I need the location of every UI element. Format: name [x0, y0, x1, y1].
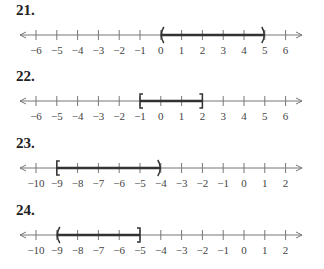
tick-label: −5	[51, 110, 63, 122]
tick-label: −1	[134, 44, 146, 56]
number-line: −10−9−8−7−6−5−4−3−2−1012	[0, 133, 324, 199]
tick-label: −7	[93, 177, 105, 189]
problem-24: 24. −10−9−8−7−6−5−4−3−2−1012	[0, 200, 324, 266]
tick-label: 1	[179, 110, 185, 122]
tick-label: −2	[197, 177, 209, 189]
tick-label: −1	[217, 244, 229, 256]
tick-label: 2	[283, 177, 289, 189]
tick-label: −10	[27, 177, 45, 189]
tick-label: 3	[220, 44, 226, 56]
tick-label: −4	[72, 110, 84, 122]
tick-label: −6	[30, 110, 42, 122]
tick-label: −8	[72, 177, 84, 189]
tick-label: 2	[200, 44, 206, 56]
tick-label: 0	[158, 110, 164, 122]
number-line: −6−5−4−3−2−10123456	[0, 66, 324, 132]
tick-label: 0	[241, 244, 247, 256]
tick-label: −5	[134, 244, 146, 256]
number-line: −10−9−8−7−6−5−4−3−2−1012	[0, 200, 324, 266]
tick-label: 0	[158, 44, 164, 56]
problem-23: 23. −10−9−8−7−6−5−4−3−2−1012	[0, 133, 324, 199]
tick-label: −2	[113, 110, 125, 122]
tick-label: 5	[262, 110, 268, 122]
tick-label: −5	[134, 177, 146, 189]
tick-label: −5	[51, 44, 63, 56]
tick-label: −3	[176, 244, 188, 256]
tick-label: 6	[283, 110, 289, 122]
tick-label: −2	[197, 244, 209, 256]
tick-label: 0	[241, 177, 247, 189]
tick-label: 4	[241, 110, 247, 122]
tick-label: 2	[283, 244, 289, 256]
tick-label: 1	[262, 244, 268, 256]
problem-22: 22. −6−5−4−3−2−10123456	[0, 66, 324, 132]
tick-label: 6	[283, 44, 289, 56]
tick-label: −3	[93, 110, 105, 122]
tick-label: −4	[155, 177, 167, 189]
tick-label: −1	[134, 110, 146, 122]
tick-label: −8	[72, 244, 84, 256]
tick-label: −3	[176, 177, 188, 189]
number-line: −6−5−4−3−2−10123456	[0, 0, 324, 66]
tick-label: −4	[72, 44, 84, 56]
tick-label: −9	[51, 177, 63, 189]
tick-label: −7	[93, 244, 105, 256]
tick-label: −6	[113, 177, 125, 189]
tick-label: −6	[30, 44, 42, 56]
tick-label: 1	[262, 177, 268, 189]
tick-label: −9	[51, 244, 63, 256]
tick-label: −10	[27, 244, 45, 256]
problem-21: 21. −6−5−4−3−2−10123456	[0, 0, 324, 66]
tick-label: −2	[113, 44, 125, 56]
tick-label: −3	[93, 44, 105, 56]
tick-label: −1	[217, 177, 229, 189]
tick-label: −4	[155, 244, 167, 256]
tick-label: 4	[241, 44, 247, 56]
tick-label: 3	[220, 110, 226, 122]
tick-label: −6	[113, 244, 125, 256]
tick-label: 2	[200, 110, 206, 122]
tick-label: 1	[179, 44, 185, 56]
tick-label: 5	[262, 44, 268, 56]
